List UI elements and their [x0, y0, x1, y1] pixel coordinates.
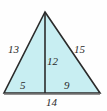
- label-left-side: 13: [8, 44, 19, 55]
- triangle-figure: 13 15 12 5 9 14: [0, 0, 107, 111]
- label-base-total: 14: [46, 97, 57, 108]
- label-base-left-segment: 5: [20, 80, 26, 91]
- label-right-side: 15: [74, 44, 85, 55]
- label-base-right-segment: 9: [64, 80, 70, 91]
- label-altitude: 12: [47, 56, 58, 67]
